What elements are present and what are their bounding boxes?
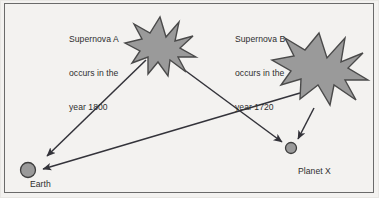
planet-x-body-circle: [286, 143, 297, 154]
earth-body-circle: [21, 163, 36, 178]
supernova-a-star-shape: [125, 17, 196, 76]
label-supernova-a-line2: occurs in the: [69, 68, 119, 79]
arrow-supernova-b-to-planet-x: [298, 108, 314, 139]
label-supernova-b: Supernova B occurs in the year 1720: [235, 11, 285, 136]
label-earth: Earth: [30, 179, 51, 190]
label-supernova-a: Supernova A occurs in the year 1800: [69, 11, 119, 136]
supernova-b-star-shape: [272, 33, 368, 105]
supernova-diagram-figure: Supernova A occurs in the year 1800 Supe…: [0, 0, 379, 198]
label-supernova-b-line1: Supernova B: [235, 34, 285, 45]
label-planet-x: Planet X: [298, 166, 331, 177]
label-supernova-a-line3: year 1800: [69, 102, 119, 113]
label-supernova-b-line3: year 1720: [235, 102, 285, 113]
label-supernova-a-line1: Supernova A: [69, 34, 119, 45]
label-supernova-b-line2: occurs in the: [235, 68, 285, 79]
